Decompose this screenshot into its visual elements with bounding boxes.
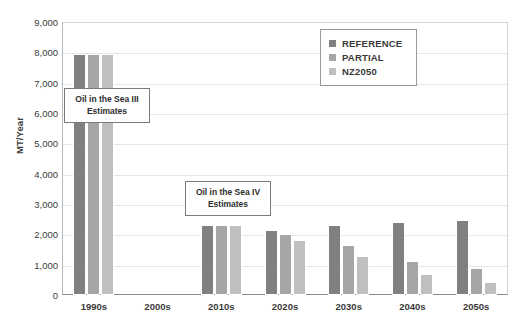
y-axis-tick-labels: 9,0008,0007,0006,0005,0004,0003,0002,000… [0, 0, 58, 323]
y-axis-tick-label: 0 [4, 290, 58, 301]
x-axis-tick-label: 2010s [208, 301, 234, 312]
bar[interactable] [328, 225, 341, 295]
bar[interactable] [215, 225, 228, 295]
y-axis-tick-label: 6,000 [4, 108, 58, 119]
bar[interactable] [470, 268, 483, 295]
bars-layer [62, 22, 508, 295]
legend-label-nz2050: NZ2050 [342, 66, 377, 77]
bar-group [456, 22, 497, 295]
x-axis-tick-label: 2040s [399, 301, 425, 312]
bar[interactable] [265, 230, 278, 295]
x-axis-tick-label: 2020s [272, 301, 298, 312]
legend: REFERENCE PARTIAL NZ2050 [320, 29, 417, 86]
legend-item-nz2050[interactable]: NZ2050 [329, 66, 402, 77]
legend-item-reference[interactable]: REFERENCE [329, 38, 402, 49]
y-axis-tick-label: 4,000 [4, 168, 58, 179]
y-axis-tick-label: 5,000 [4, 138, 58, 149]
bar-group [201, 22, 242, 295]
y-axis-tick-label: 1,000 [4, 259, 58, 270]
y-axis-tick-label: 2,000 [4, 229, 58, 240]
x-axis-tick-label: 2000s [144, 301, 170, 312]
legend-label-reference: REFERENCE [342, 38, 402, 49]
bar[interactable] [229, 225, 242, 295]
y-axis-tick-label: 3,000 [4, 199, 58, 210]
x-axis-tick-label: 2030s [335, 301, 361, 312]
bar-group [73, 22, 114, 295]
y-axis-tick-label: 7,000 [4, 77, 58, 88]
bar[interactable] [201, 225, 214, 295]
bar[interactable] [484, 282, 497, 295]
legend-label-partial: PARTIAL [342, 52, 384, 63]
y-axis-tick-label: 8,000 [4, 47, 58, 58]
annotation-oil-in-the-sea-iv: Oil in the Sea IV Estimates [185, 181, 271, 216]
bar[interactable] [356, 256, 369, 295]
x-axis-tick-label: 1990s [81, 301, 107, 312]
bar[interactable] [420, 274, 433, 295]
legend-swatch-nz2050 [329, 68, 336, 75]
legend-swatch-partial [329, 54, 336, 61]
bar-group [137, 22, 178, 295]
bar-group [265, 22, 306, 295]
bar[interactable] [293, 240, 306, 295]
bar[interactable] [392, 222, 405, 295]
y-axis-tick-label: 9,000 [4, 17, 58, 28]
bar[interactable] [406, 261, 419, 295]
bar[interactable] [342, 245, 355, 295]
legend-swatch-reference [329, 40, 336, 47]
annotation-oil-in-the-sea-iii: Oil in the Sea III Estimates [64, 88, 150, 123]
legend-item-partial[interactable]: PARTIAL [329, 52, 402, 63]
x-axis-tick-label: 2050s [463, 301, 489, 312]
bar[interactable] [456, 220, 469, 295]
bar[interactable] [279, 234, 292, 295]
bar-chart: MT/Year 9,0008,0007,0006,0005,0004,0003,… [0, 0, 527, 323]
